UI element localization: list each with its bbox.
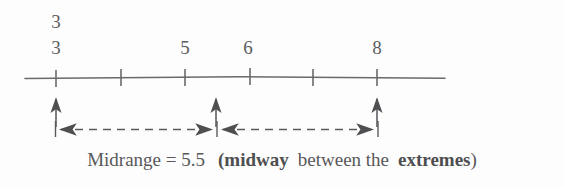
label-5: 5 — [171, 38, 199, 57]
midrange-figure: 3 3 5 6 8 Midrange = 5.5(midwaybetween t… — [0, 0, 564, 187]
caption-middle: between the — [298, 149, 389, 170]
caption-lead: Midrange = 5.5 — [87, 149, 205, 170]
figure-caption: Midrange = 5.5(midwaybetween theextremes… — [0, 150, 564, 171]
caption-bold-extremes: extremes — [398, 149, 470, 170]
label-6: 6 — [234, 38, 262, 57]
caption-paren-close: ) — [470, 149, 476, 170]
axis-line — [25, 77, 445, 79]
axis-line-group — [25, 77, 445, 79]
caption-bold-midway: midway — [224, 149, 288, 170]
label-3: 3 — [42, 38, 70, 57]
label-8: 8 — [363, 38, 391, 57]
label-duplicate-3: 3 — [42, 12, 70, 31]
